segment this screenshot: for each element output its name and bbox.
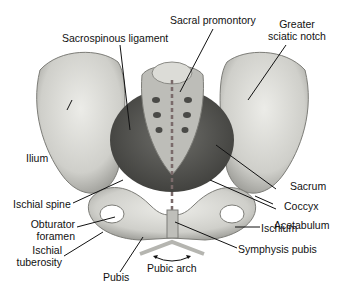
label-obturator-foramen-line2: foramen xyxy=(10,230,75,242)
label-sacrospinous-ligament: Sacrospinous ligament xyxy=(62,32,168,44)
label-symphysis-pubis: Symphysis pubis xyxy=(238,243,317,255)
label-ilium: Ilium xyxy=(26,152,48,164)
label-ischial-tuberosity-line1: Ischial xyxy=(0,244,62,256)
label-pubis: Pubis xyxy=(103,271,129,283)
pelvis-diagram: Sacral promontory Greater sciatic notch … xyxy=(0,0,345,299)
label-ischial-spine: Ischial spine xyxy=(13,198,71,210)
label-pubic-arch: Pubic arch xyxy=(147,262,197,274)
label-ischial-tuberosity-line2: tuberosity xyxy=(0,256,62,268)
label-coccyx: Coccyx xyxy=(284,200,318,212)
label-ischium: Ischium xyxy=(261,222,297,234)
label-greater-sciatic-notch-line2: sciatic notch xyxy=(262,30,332,42)
label-greater-sciatic-notch-line1: Greater xyxy=(262,18,332,30)
label-sacrum: Sacrum xyxy=(290,180,326,192)
label-obturator-foramen-line1: Obturator xyxy=(10,218,75,230)
label-sacral-promontory: Sacral promontory xyxy=(170,14,256,26)
